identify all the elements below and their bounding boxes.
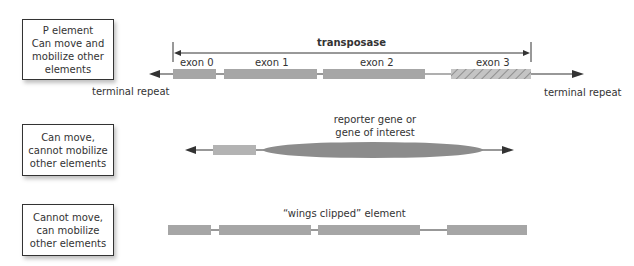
exon-0-label: exon 0 [180, 57, 214, 68]
exon-0-block [173, 69, 216, 79]
right-terminal-repeat-arrow [572, 70, 584, 78]
wings-clipped-label: “wings clipped” element [283, 208, 406, 219]
exon-2-label: exon 2 [360, 57, 394, 68]
label-line: gene of interest [320, 126, 430, 139]
transposase-label: transposase [317, 37, 386, 48]
p-element-backbone [149, 69, 584, 79]
left-repeat-arrow [185, 146, 196, 154]
label-line: reporter gene or [320, 113, 430, 126]
exon-block [318, 225, 420, 235]
exon-3-block [451, 69, 531, 79]
reporter-gene-shape [263, 142, 483, 158]
exon-block [219, 225, 311, 235]
wings-clipped-element [168, 225, 527, 235]
right-repeat-arrow [502, 146, 514, 154]
exon-1-label: exon 1 [255, 57, 289, 68]
right-terminal-repeat-label: terminal repeat [544, 87, 622, 98]
left-terminal-repeat-label: terminal repeat [92, 86, 170, 97]
left-terminal-repeat-arrow [149, 70, 160, 78]
reporter-gene-label: reporter gene or gene of interest [320, 113, 430, 139]
exon-3-label: exon 3 [476, 57, 510, 68]
exon-block [447, 225, 527, 235]
exon-1-block [224, 69, 317, 79]
exon-block [168, 225, 211, 235]
exon-2-block [323, 69, 425, 79]
reporter-construct [185, 142, 514, 158]
exon-0-block [213, 145, 256, 155]
